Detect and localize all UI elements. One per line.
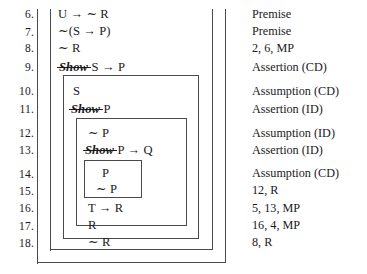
justification: Assertion (ID): [252, 144, 323, 156]
proof-formula: R: [88, 219, 97, 232]
line-number: 14.: [0, 169, 34, 181]
scope-rule-second: [50, 9, 51, 251]
line-number: 6.: [0, 9, 34, 21]
justification: Assumption (CD): [252, 85, 339, 97]
proof-formula: ∼(S → P): [58, 25, 111, 38]
justification: Assumption (ID): [252, 127, 335, 139]
formula-text: U → ∼ R: [58, 7, 109, 21]
scope-rule-second-foot: [50, 249, 212, 250]
line-number-column: 6. 7. 8. 9. 10. 11. 12. 13. 14. 15. 16. …: [0, 0, 34, 274]
scope-rule-outer-right: [225, 9, 226, 263]
proof-formula-show: ShowP → Q: [84, 144, 153, 157]
formula-text: ∼(S → P): [58, 24, 111, 38]
formula-text: R: [88, 218, 97, 232]
show-keyword-struck: Show: [70, 102, 101, 116]
proof-formula: S: [73, 85, 80, 98]
line-number: 11.: [0, 104, 34, 116]
proof-formula: ∼ R: [88, 236, 110, 249]
scope-rule-outer: [37, 9, 38, 264]
formula-text: ∼ R: [88, 235, 110, 249]
line-number: 8.: [0, 43, 34, 55]
line-number: 12.: [0, 128, 34, 140]
line-number: 7.: [0, 27, 34, 39]
proof-formula: U → ∼ R: [58, 8, 109, 21]
scope-rule-second-right: [212, 9, 213, 250]
proof-formula-show: ShowS → P: [58, 61, 125, 74]
line-number: 16.: [0, 203, 34, 215]
justification: Assumption (CD): [252, 167, 339, 179]
proof-figure: 6. 7. 8. 9. 10. 11. 12. 13. 14. 15. 16. …: [0, 0, 367, 274]
proof-formula-show: ShowP: [70, 103, 111, 116]
line-number: 13.: [0, 145, 34, 157]
justification: 8, R: [252, 236, 272, 248]
line-number: 10.: [0, 86, 34, 98]
line-number: 15.: [0, 186, 34, 198]
show-keyword-struck: Show: [84, 143, 115, 157]
formula-text: ∼ P: [88, 126, 109, 140]
proof-formula: ∼ R: [58, 42, 80, 55]
formula-text: ∼ R: [58, 41, 80, 55]
line-number: 17.: [0, 221, 34, 233]
proof-formula: ∼ P: [88, 127, 109, 140]
justification: 2, 6, MP: [252, 42, 294, 54]
formula-text: P → Q: [118, 143, 153, 157]
justification: Assertion (ID): [252, 103, 323, 115]
justification: Premise: [252, 25, 291, 37]
line-number: 18.: [0, 238, 34, 250]
formula-text: ∼ P: [96, 182, 117, 196]
proof-formula: P: [102, 167, 109, 180]
proof-formula: T → R: [88, 202, 123, 215]
formula-text: S: [73, 84, 80, 98]
justification: 16, 4, MP: [252, 219, 300, 231]
formula-text: P: [102, 166, 109, 180]
proof-formula: ∼ P: [96, 183, 117, 196]
scope-rule-outer-foot: [37, 262, 225, 263]
show-keyword-struck: Show: [58, 60, 89, 74]
justification: 12, R: [252, 184, 278, 196]
formula-text: S → P: [92, 60, 125, 74]
justification: Premise: [252, 8, 291, 20]
justification: 5, 13, MP: [252, 202, 300, 214]
formula-text: P: [104, 102, 111, 116]
formula-text: T → R: [88, 201, 123, 215]
justification: Assertion (CD): [252, 61, 327, 73]
line-number: 9.: [0, 62, 34, 74]
